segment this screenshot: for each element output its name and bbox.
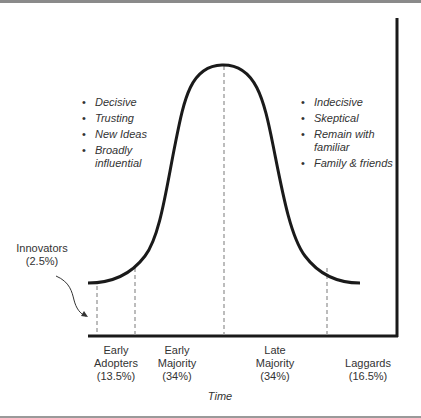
segment-share: (34%) <box>145 370 209 383</box>
segment-late-majority: Late Majority (34%) <box>243 344 307 383</box>
innovators-arrow <box>56 276 86 316</box>
late-traits-list: Indecisive Skeptical Remain with familia… <box>301 96 411 173</box>
segment-early-majority: Early Majority (34%) <box>145 344 209 383</box>
segment-line1: Early <box>84 344 148 357</box>
trait-item: Trusting <box>82 112 172 125</box>
trait-item: New Ideas <box>82 128 172 141</box>
early-traits-list: Decisive Trusting New Ideas Broadly infl… <box>82 96 172 173</box>
trait-item: Broadly influential <box>82 144 172 170</box>
segment-laggards: Laggards (16.5%) <box>336 357 400 383</box>
segment-line2: Laggards <box>336 357 400 370</box>
innovators-share: (2.5%) <box>12 255 72 268</box>
innovators-name: Innovators <box>12 242 72 255</box>
trait-item: Decisive <box>82 96 172 109</box>
trait-item: Indecisive <box>301 96 411 109</box>
segment-line2: Adopters <box>84 357 148 370</box>
segment-line1: Late <box>243 344 307 357</box>
trait-item: Family & friends <box>301 157 411 170</box>
segment-line2: Majority <box>243 357 307 370</box>
adoption-curve-plot <box>0 0 421 418</box>
segment-share: (16.5%) <box>336 370 400 383</box>
trait-item: Skeptical <box>301 112 411 125</box>
segment-early-adopters: Early Adopters (13.5%) <box>84 344 148 383</box>
segment-share: (13.5%) <box>84 370 148 383</box>
segment-line2: Majority <box>145 357 209 370</box>
x-axis-label: Time <box>200 390 240 402</box>
trait-item: Remain with familiar <box>301 128 411 154</box>
segment-line1: Early <box>145 344 209 357</box>
segment-share: (34%) <box>243 370 307 383</box>
innovators-label: Innovators (2.5%) <box>12 242 72 268</box>
